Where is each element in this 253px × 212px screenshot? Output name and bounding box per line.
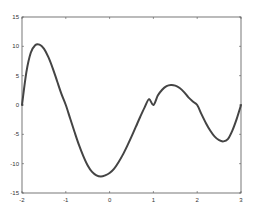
x-tick-label: 0 (108, 197, 112, 203)
line-chart: -2-10123 151050-5-10-15 (0, 0, 253, 212)
y-tick-label: -10 (10, 161, 19, 167)
x-tick-label: 2 (196, 197, 200, 203)
y-tick-label: 15 (12, 14, 19, 20)
x-tick-label: -2 (19, 197, 25, 203)
y-axis-tick-labels: 151050-5-10-15 (10, 14, 19, 196)
x-axis-tick-labels: -2-10123 (19, 197, 243, 203)
axes-box (22, 17, 241, 193)
x-tick-label: 1 (152, 197, 156, 203)
x-tick-label: -1 (63, 197, 69, 203)
y-tick-label: -15 (10, 190, 19, 196)
y-tick-label: 0 (16, 102, 20, 108)
y-tick-label: 10 (12, 43, 19, 49)
x-tick-label: 3 (239, 197, 243, 203)
y-tick-label: 5 (16, 73, 20, 79)
y-tick-label: -5 (14, 131, 20, 137)
